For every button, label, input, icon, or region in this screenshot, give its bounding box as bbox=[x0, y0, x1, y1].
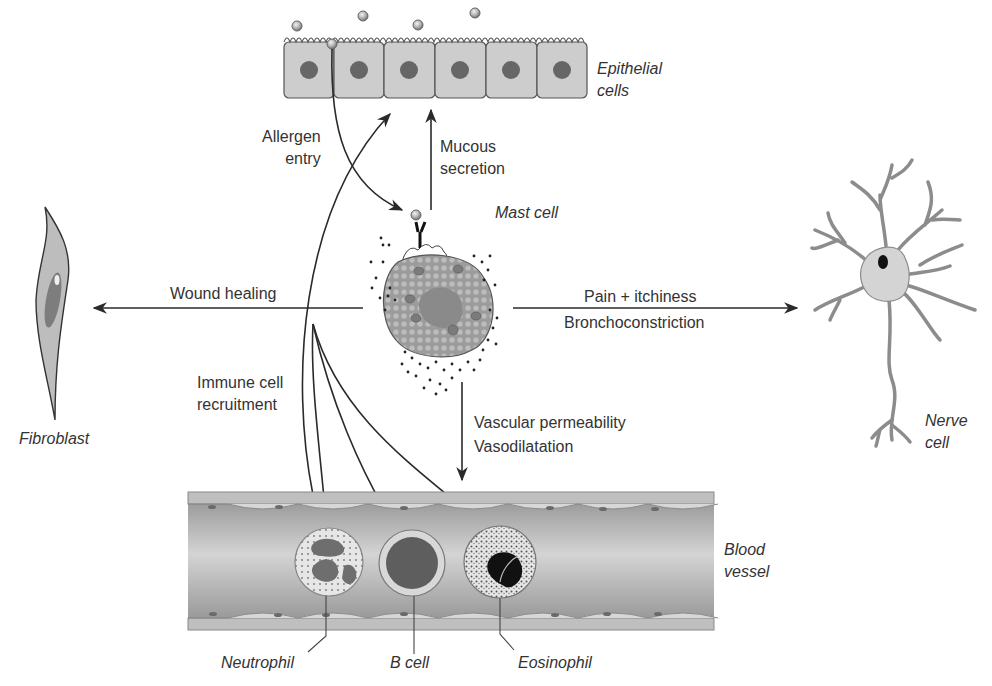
label-mucous-line1: Mucous bbox=[440, 136, 505, 158]
label-b-cell: B cell bbox=[390, 652, 429, 674]
label-allergen-line2: entry bbox=[262, 148, 321, 170]
label-epithelial-cells: Epithelial cells bbox=[597, 58, 662, 102]
allergen-particles bbox=[292, 8, 480, 220]
fibroblast bbox=[36, 207, 69, 420]
label-nerve-line2: cell bbox=[925, 432, 968, 454]
label-blood-line2: vessel bbox=[724, 561, 769, 583]
b-cell bbox=[379, 530, 445, 596]
label-mucous-line2: secretion bbox=[440, 158, 505, 180]
label-vascular: Vascular permeability Vasodilatation bbox=[474, 412, 626, 458]
immune-to-epithelium-arrow bbox=[302, 114, 390, 495]
label-bronchoconstriction: Bronchoconstriction bbox=[564, 312, 705, 334]
blood-vessel bbox=[188, 492, 718, 630]
mast-cell bbox=[370, 222, 499, 395]
label-wound-healing: Wound healing bbox=[170, 283, 276, 305]
label-vasodilatation: Vasodilatation bbox=[474, 436, 626, 458]
neutrophil bbox=[295, 528, 363, 596]
label-epithelial-line1: Epithelial bbox=[597, 58, 662, 80]
eosinophil bbox=[464, 526, 536, 598]
label-allergen-entry: Allergen entry bbox=[262, 126, 321, 170]
label-eosinophil: Eosinophil bbox=[518, 652, 592, 674]
label-epithelial-line2: cells bbox=[597, 80, 662, 102]
nerve-cell bbox=[812, 160, 975, 446]
label-pain-itchiness: Pain + itchiness bbox=[584, 286, 697, 308]
label-mast-cell: Mast cell bbox=[495, 202, 558, 224]
nerve-cell-body bbox=[861, 247, 910, 301]
nerve-nucleus bbox=[878, 255, 888, 269]
label-immune-line2: recruitment bbox=[197, 394, 283, 416]
label-immune-recruitment: Immune cell recruitment bbox=[197, 372, 283, 416]
label-allergen-line1: Allergen bbox=[262, 126, 321, 148]
label-blood-line1: Blood bbox=[724, 539, 769, 561]
label-blood-vessel: Blood vessel bbox=[724, 539, 769, 583]
label-mucous-secretion: Mucous secretion bbox=[440, 136, 505, 180]
label-immune-line1: Immune cell bbox=[197, 372, 283, 394]
label-vascular-permeability: Vascular permeability bbox=[474, 412, 626, 434]
label-nerve-line1: Nerve bbox=[925, 410, 968, 432]
label-fibroblast: Fibroblast bbox=[19, 428, 89, 450]
label-nerve-cell: Nerve cell bbox=[925, 410, 968, 454]
label-neutrophil: Neutrophil bbox=[221, 652, 294, 674]
